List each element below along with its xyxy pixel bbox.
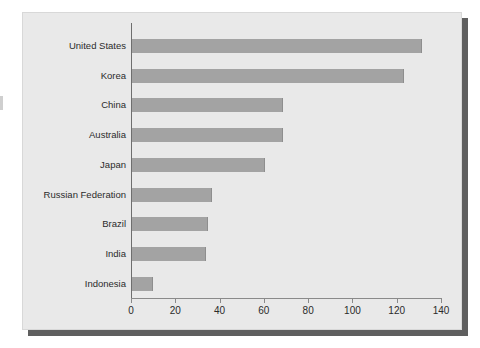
x-axis-tick-label: 40 [214, 305, 225, 316]
x-axis-tick [441, 298, 442, 303]
bar [132, 158, 265, 172]
bar [132, 188, 212, 202]
bar-row: Russian Federation [23, 188, 463, 202]
category-label: Indonesia [23, 277, 126, 291]
x-axis-tick [220, 298, 221, 303]
page-edge-artifact [0, 96, 3, 110]
chart-figure: 020406080100120140United StatesKoreaChin… [22, 12, 462, 330]
chart-panel: 020406080100120140United StatesKoreaChin… [22, 12, 462, 330]
x-axis-tick-label: 0 [128, 305, 134, 316]
category-label: Australia [23, 128, 126, 142]
bar [132, 98, 283, 112]
bar-row: Japan [23, 158, 463, 172]
x-axis-tick-label: 100 [344, 305, 361, 316]
bar-row: China [23, 98, 463, 112]
category-label: Brazil [23, 217, 126, 231]
bar-row: Indonesia [23, 277, 463, 291]
category-label: India [23, 247, 126, 261]
category-label: Japan [23, 158, 126, 172]
x-axis-line [131, 298, 441, 299]
category-label: Russian Federation [23, 188, 126, 202]
bar-row: Korea [23, 69, 463, 83]
x-axis-tick [352, 298, 353, 303]
category-label: China [23, 98, 126, 112]
x-axis-tick [131, 298, 132, 303]
bar [132, 128, 283, 142]
bar [132, 69, 404, 83]
bar-row: Australia [23, 128, 463, 142]
x-axis-tick-label: 20 [170, 305, 181, 316]
category-label: Korea [23, 69, 126, 83]
x-axis-tick-label: 80 [303, 305, 314, 316]
x-axis-tick-label: 140 [433, 305, 450, 316]
plot-area: 020406080100120140United StatesKoreaChin… [23, 13, 461, 329]
bar [132, 217, 208, 231]
x-axis-tick [264, 298, 265, 303]
bar [132, 277, 153, 291]
bar-row: India [23, 247, 463, 261]
x-axis-tick-label: 60 [258, 305, 269, 316]
x-axis-tick [308, 298, 309, 303]
x-axis-tick [175, 298, 176, 303]
bar [132, 247, 206, 261]
bar-row: Brazil [23, 217, 463, 231]
x-axis-tick-label: 120 [388, 305, 405, 316]
category-label: United States [23, 39, 126, 53]
x-axis-tick [397, 298, 398, 303]
bar-row: United States [23, 39, 463, 53]
bar [132, 39, 422, 53]
